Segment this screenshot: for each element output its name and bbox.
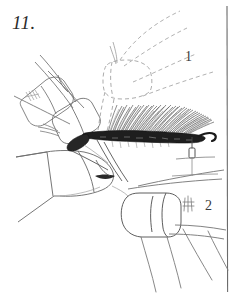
lower-left-femur-segment [16,151,114,223]
callout-label-2: 2 [205,198,212,214]
right-plate-rule-line [227,6,228,292]
upper-left-box-segment [20,77,73,126]
articulation-inner-arc [96,160,110,176]
dashed-distal-sweep-lines [120,11,213,96]
line-drawing-canvas [0,0,237,296]
plate-figure-number: 11. [12,12,36,34]
articulation-dark-wedge [95,175,115,180]
lower-right-cylindrical-segment [121,193,181,237]
faint-connecting-lines [60,145,128,196]
small-seta-tuft [183,196,194,212]
figure-plate: 11. 1 2 [0,0,237,296]
comb-band-base-taper [67,134,89,151]
descending-bristles [141,229,228,292]
callout-label-1: 1 [185,49,192,65]
